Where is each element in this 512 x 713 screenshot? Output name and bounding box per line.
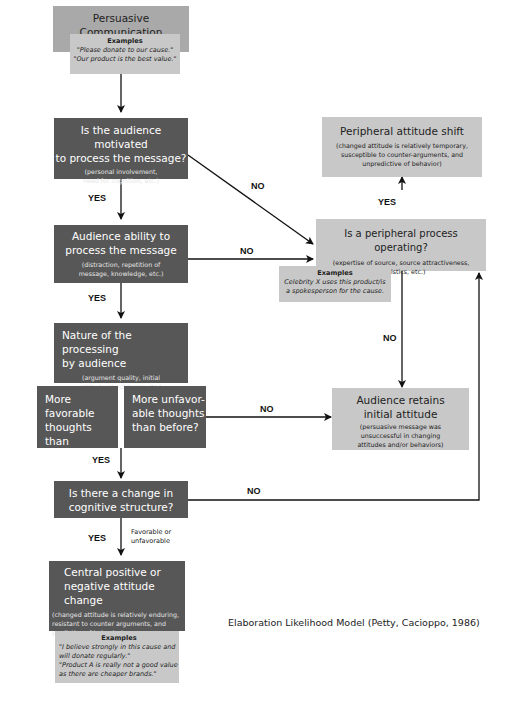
note-line: Favorable or: [131, 528, 171, 537]
no-label-peripheral: NO: [383, 333, 397, 343]
ability-title: process the message: [54, 243, 188, 257]
example-line: "Product A is really not a good value: [59, 661, 179, 670]
example-line: will donate regularly.": [59, 652, 179, 661]
diagram-caption: Elaboration Likelihood Model (Petty, Cac…: [228, 617, 480, 628]
ability-box: Audience ability to process the message …: [54, 225, 188, 283]
motivation-title: to process the message?: [54, 151, 188, 165]
more-favorable-thoughts-box: More favorable thoughts than before?: [37, 386, 118, 448]
cognitive-structure-box: Is there a change in cognitive structure…: [54, 481, 188, 518]
nature-title: Nature of the processing: [62, 328, 188, 356]
nature-of-processing-box: Nature of the processing by audience (ar…: [54, 323, 188, 383]
peripheral-process-box: Is a peripheral process operating? (expe…: [316, 219, 486, 271]
ability-detail: (distraction, repetition of: [54, 260, 188, 269]
yes-label-peripheral: YES: [378, 197, 396, 207]
peripheral-shift-detail: unpredictive of behavior): [322, 159, 482, 168]
examples-heading: Examples: [59, 634, 179, 643]
central-title: Central positive or: [52, 565, 182, 579]
example-line: as there are cheaper brands.": [59, 670, 179, 679]
examples-heading: Examples: [279, 269, 391, 278]
no-label-ability: NO: [240, 246, 254, 256]
ability-title: Audience ability to: [54, 229, 188, 243]
start-examples-box: Examples "Please donate to our cause." "…: [70, 34, 180, 74]
yes-label-thoughts: YES: [92, 455, 110, 465]
audience-retains-attitude-box: Audience retains initial attitude (persu…: [332, 388, 469, 450]
nature-detail: (argument quality, initial: [62, 373, 180, 382]
motivation-detail: (personal involvement,: [54, 167, 188, 176]
cognitive-title: Is there a change in: [54, 486, 188, 500]
favorable-line: More favorable: [45, 392, 118, 420]
motivation-title: Is the audience motivated: [54, 123, 188, 151]
no-label-unfavorable: NO: [260, 404, 274, 414]
example-line: "I believe strongly in this cause and: [59, 643, 179, 652]
peripheral-shift-detail: susceptible to counter-arguments, and: [322, 150, 482, 159]
motivation-question-box: Is the audience motivated to process the…: [54, 118, 188, 179]
peripheral-process-title: Is a peripheral process operating?: [316, 227, 486, 255]
retains-detail: (persuasive message was: [332, 422, 469, 431]
peripheral-shift-title: Peripheral attitude shift: [322, 124, 482, 138]
central-detail: (changed attitude is relatively enduring…: [52, 610, 182, 619]
favorable-line: thoughts than: [45, 420, 118, 448]
central-examples-box: Examples "I believe strongly in this cau…: [55, 631, 179, 683]
central-detail: resistant to counter arguments, and: [52, 619, 182, 628]
retains-detail: attitudes and/or behaviors): [332, 440, 469, 449]
example-line: "Our product is the best value.": [70, 55, 180, 64]
unfavorable-line: than before?: [132, 420, 206, 434]
central-attitude-change-box: Central positive or negative attitude ch…: [49, 561, 185, 631]
example-line: Celebrity X uses this product/is: [279, 278, 391, 287]
yes-label-motivation: YES: [88, 193, 106, 203]
no-label-cognitive: NO: [247, 486, 261, 496]
example-line: a spokesperson for the cause.: [279, 287, 391, 296]
yes-label-cognitive: YES: [88, 533, 106, 543]
peripheral-shift-detail: (changed attitude is relatively temporar…: [322, 141, 482, 150]
no-label-motivation: NO: [251, 181, 265, 191]
nature-title: by audience: [62, 356, 188, 370]
unfavorable-line: More unfavor-: [132, 392, 206, 406]
motivation-detail: need for cognition, etc.): [54, 176, 188, 185]
retains-title: Audience retains: [332, 393, 469, 407]
more-unfavorable-thoughts-box: More unfavor- able thoughts than before?: [124, 386, 206, 448]
peripheral-examples-box: Examples Celebrity X uses this product/i…: [279, 266, 391, 302]
example-line: "Please donate to our cause.": [70, 46, 180, 55]
ability-detail: message, knowledge, etc.): [54, 269, 188, 278]
examples-heading: Examples: [70, 37, 180, 46]
note-line: unfavorable: [131, 537, 171, 546]
peripheral-attitude-shift-box: Peripheral attitude shift (changed attit…: [322, 117, 482, 177]
central-title: negative attitude change: [52, 579, 182, 607]
yes-label-ability: YES: [88, 293, 106, 303]
cognitive-title: cognitive structure?: [54, 500, 188, 514]
retains-title: initial attitude: [332, 407, 469, 421]
retains-detail: unsuccessful in changing: [332, 431, 469, 440]
unfavorable-line: able thoughts: [132, 406, 206, 420]
favorable-or-unfavorable-note: Favorable or unfavorable: [131, 528, 171, 546]
